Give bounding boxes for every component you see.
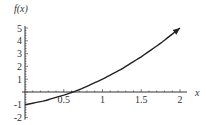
y-tick-labels: 54321-1-2: [14, 23, 22, 124]
x-tick-label: 1.5: [135, 94, 148, 105]
chart: 54321-1-2 0.511.52 f(x) x: [0, 0, 206, 125]
y-tick-label: 5: [17, 23, 22, 34]
y-tick-label: 1: [17, 74, 22, 85]
axes: [22, 26, 187, 120]
x-tick-label: 1: [100, 94, 105, 105]
y-tick-label: -2: [14, 112, 22, 123]
y-tick-label: 2: [17, 61, 22, 72]
y-tick-label: -1: [14, 99, 22, 110]
x-tick-label: 2: [178, 94, 183, 105]
y-tick-label: 4: [17, 35, 22, 46]
x-tick-labels: 0.511.52: [58, 94, 183, 105]
y-axis-label: f(x): [14, 3, 29, 15]
y-tick-label: 3: [17, 48, 22, 59]
x-axis-label: x: [194, 87, 200, 98]
